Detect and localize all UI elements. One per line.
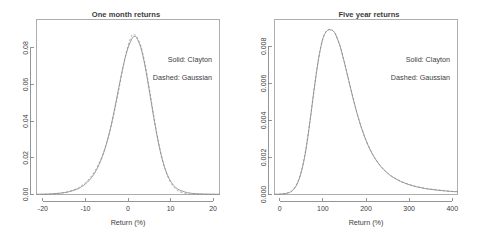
panel-one-month: One month returns 0.000.020.040.060.08 -… bbox=[0, 0, 243, 236]
legend-dashed-label: Dashed: Gaussian bbox=[153, 73, 212, 82]
legend-solid-label: Solid: Clayton bbox=[406, 55, 450, 64]
legend-solid-label: Solid: Clayton bbox=[168, 55, 212, 64]
x-axis-title: Return (%) bbox=[349, 218, 384, 227]
y-tick-label: 0.006 bbox=[260, 75, 267, 93]
x-axis-right: 0100200300400 bbox=[278, 198, 459, 212]
plot-box bbox=[37, 20, 220, 195]
plot-svg-left: One month returns 0.000.020.040.060.08 -… bbox=[0, 0, 243, 236]
figure-root: One month returns 0.000.020.040.060.08 -… bbox=[0, 0, 486, 236]
y-axis-right: 0.0000.0020.0040.0060.008 bbox=[260, 37, 271, 203]
x-tick-label: 300 bbox=[403, 205, 415, 212]
x-tick-label: 20 bbox=[209, 205, 217, 212]
y-tick-label: 0.04 bbox=[22, 114, 29, 128]
x-tick-label: 0 bbox=[278, 205, 282, 212]
x-tick-label: 10 bbox=[167, 205, 175, 212]
y-tick-label: 0.08 bbox=[22, 41, 29, 55]
y-axis-left: 0.000.020.040.060.08 bbox=[22, 41, 33, 201]
panel-title: One month returns bbox=[92, 10, 160, 19]
y-tick-label: 0.000 bbox=[260, 186, 267, 204]
x-tick-label: -20 bbox=[38, 205, 48, 212]
y-tick-label: 0.008 bbox=[260, 37, 267, 55]
x-tick-label: -10 bbox=[80, 205, 90, 212]
x-tick-label: 100 bbox=[317, 205, 329, 212]
x-tick-label: 0 bbox=[126, 205, 130, 212]
y-tick-label: 0.004 bbox=[260, 112, 267, 130]
x-axis-left: -20-1001020 bbox=[38, 198, 217, 212]
plot-area-right: 0.0000.0020.0040.0060.008 0100200300400 bbox=[260, 20, 458, 212]
x-tick-label: 400 bbox=[446, 205, 458, 212]
x-axis-title: Return (%) bbox=[111, 218, 146, 227]
y-tick-label: 0.00 bbox=[22, 188, 29, 202]
panel-five-year: Five year returns 0.0000.0020.0040.0060.… bbox=[243, 0, 486, 236]
legend-dashed-label: Dashed: Gaussian bbox=[391, 73, 450, 82]
panel-title: Five year returns bbox=[338, 10, 399, 19]
y-tick-label: 0.06 bbox=[22, 78, 29, 92]
y-tick-label: 0.002 bbox=[260, 149, 267, 167]
y-tick-label: 0.02 bbox=[22, 151, 29, 165]
plot-area-left: 0.000.020.040.060.08 -20-1001020 bbox=[22, 20, 219, 212]
plot-svg-right: Five year returns 0.0000.0020.0040.0060.… bbox=[243, 0, 486, 236]
x-tick-label: 200 bbox=[360, 205, 372, 212]
